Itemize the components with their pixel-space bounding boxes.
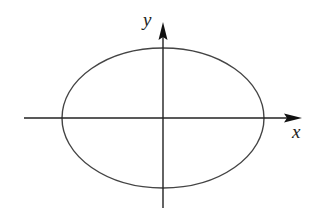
x-axis-label: x (292, 122, 300, 141)
ellipse-diagram (0, 0, 325, 208)
y-axis-label: y (143, 10, 151, 29)
